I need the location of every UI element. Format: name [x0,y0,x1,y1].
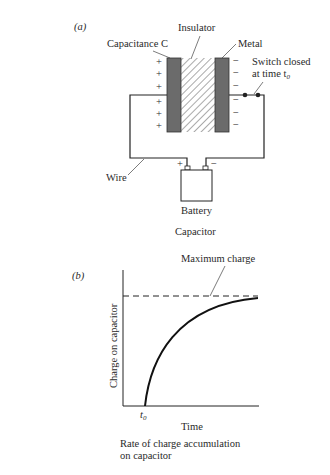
switch-contact-right [256,93,261,98]
y-axis-label: Charge on capacitor [108,303,119,388]
metal-label: Metal [238,38,263,49]
svg-text:−: − [233,80,239,91]
svg-text:−: − [233,94,239,105]
battery [181,170,212,201]
left-plate [167,58,181,132]
right-plate [215,58,229,132]
battery-terminal-negative [203,166,208,170]
positive-charges: + + + + + + [156,56,162,131]
panel-b-label: (b) [72,270,85,282]
t0-label: t0 [140,409,147,422]
svg-text:+: + [156,56,162,67]
svg-text:+: + [156,96,162,107]
x-axis-label: Time [181,421,203,432]
battery-terminal-positive [185,166,190,170]
wire-leader [128,159,144,175]
insulator-label: Insulator [178,22,216,33]
wire-label: Wire [106,172,127,183]
capacitor-figure: (a) Insulator Capacitance C Metal Switch… [0,0,330,475]
svg-text:+: + [156,108,162,119]
battery-minus: − [211,158,217,169]
switch-contact-left [243,93,248,98]
svg-text:+: + [156,120,162,131]
svg-text:−: − [233,55,239,66]
charge-curve [145,298,258,406]
svg-text:−: − [233,107,239,118]
panel-b-caption-line2: on capacitor [120,450,172,461]
max-charge-label: Maximum charge [181,253,256,264]
capacitance-label: Capacitance C [107,38,168,49]
svg-text:−: − [233,119,239,130]
negative-charges: − − − − − − [233,55,239,130]
battery-label: Battery [181,205,213,216]
insulator-leader [191,36,200,59]
max-charge-leader [210,266,225,296]
insulator [181,58,215,132]
svg-text:+: + [156,81,162,92]
panel-a-label: (a) [74,21,87,33]
panel-a-caption: Capacitor [175,226,216,237]
switch-label-line2: at time t0 [252,68,290,81]
battery-plus: + [177,158,183,169]
panel-b-caption-line1: Rate of charge accumulation [120,438,241,449]
switch-leader [254,82,263,94]
svg-text:−: − [233,67,239,78]
switch-label-line1: Switch closed [252,56,311,67]
svg-text:+: + [156,68,162,79]
